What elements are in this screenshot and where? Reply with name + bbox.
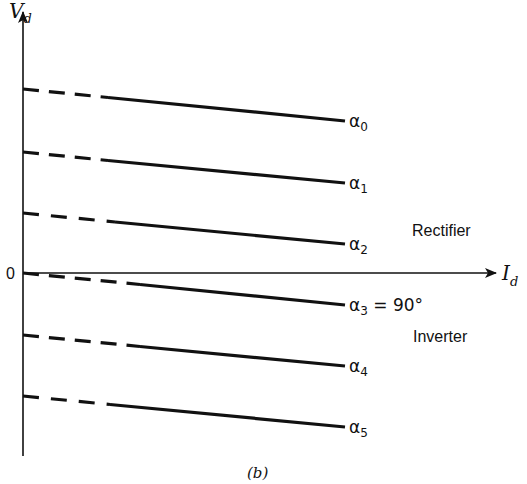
rectifier-label: Rectifier (412, 222, 471, 239)
curve-label-alpha5: α5 (349, 417, 368, 440)
curve-label-alpha3: α3 = 90° (349, 295, 423, 318)
x-axis-label: Id (501, 261, 518, 289)
curve-alpha4 (23, 335, 345, 366)
inverter-label: Inverter (413, 328, 468, 345)
curve-alpha5 (23, 396, 345, 427)
origin-label: 0 (6, 265, 15, 282)
y-axis-label: Vd (9, 0, 32, 26)
curve-alpha2 (23, 213, 345, 244)
curve-label-alpha2: α2 (349, 234, 368, 257)
curve-label-alpha4: α4 (349, 356, 368, 379)
curve-alpha0 (23, 89, 345, 121)
curve-label-alpha0: α0 (349, 111, 368, 134)
curve-alpha3 (23, 273, 345, 305)
curve-alpha1 (23, 152, 345, 183)
converter-characteristic-diagram: Vd Id 0 α0 α1 α2 α3 = 90° α4 (0, 0, 527, 484)
curve-label-alpha1: α1 (349, 173, 368, 196)
figure-caption: (b) (247, 464, 268, 482)
